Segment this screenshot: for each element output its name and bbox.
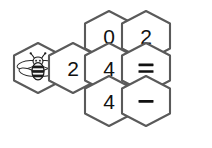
hex-label-mid-left: 2 xyxy=(67,57,79,80)
honeycomb-puzzle: 0 2 2 4 4 xyxy=(0,0,212,148)
honeycomb-grid: 0 2 2 4 4 xyxy=(0,0,212,148)
hex-label-bottom-left: 4 xyxy=(103,90,115,113)
minus-icon xyxy=(139,100,154,103)
